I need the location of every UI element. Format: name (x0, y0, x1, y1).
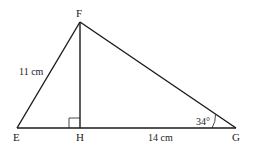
vertex-label-G: G (232, 131, 240, 143)
side-FG (80, 22, 236, 128)
vertex-label-F: F (76, 7, 82, 19)
length-label-EF: 11 cm (19, 66, 44, 77)
vertex-label-H: H (76, 131, 84, 143)
length-label-HG: 14 cm (148, 132, 173, 143)
vertex-label-E: E (13, 131, 20, 143)
right-angle-marker (69, 118, 80, 128)
triangle-diagram: F E H G 11 cm 14 cm 34° (0, 0, 253, 147)
angle-arc-G (212, 115, 216, 129)
angle-label-G: 34° (196, 116, 210, 127)
